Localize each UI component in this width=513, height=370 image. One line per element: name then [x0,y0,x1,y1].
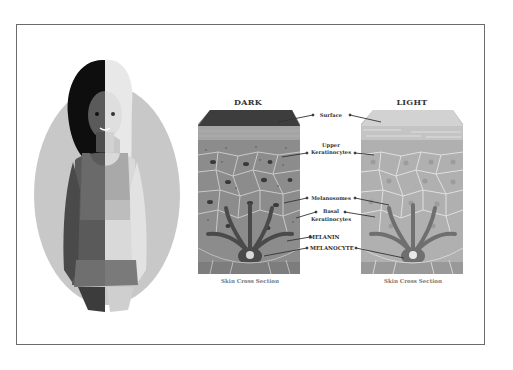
label-melanocyte: MELANOCYTE [308,245,356,252]
label-basal-keratinocytes-line2: Keratinocytes [309,216,353,223]
label-upper-keratinocytes-line2: Keratinocytes [309,149,353,156]
label-surface: Surface [314,112,348,119]
label-melanin: MELANIN [309,234,349,241]
label-basal-keratinocytes-line1: Basal [309,208,353,215]
light-panel-caption: Skin Cross Section [373,278,453,284]
dark-panel-caption: Skin Cross Section [210,278,290,284]
leader-lines [0,0,513,370]
label-melanosomes: Melanosomes [308,195,354,202]
label-upper-keratinocytes-line1: Upper [309,142,353,149]
